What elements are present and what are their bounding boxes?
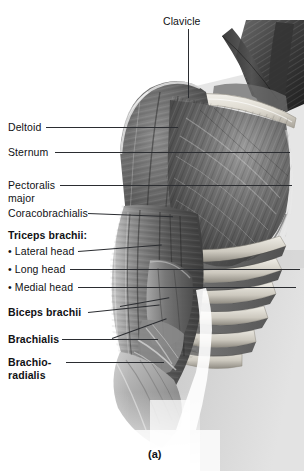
leader-line-medial-head	[78, 287, 296, 288]
leader-line-deltoid	[46, 127, 178, 128]
leader-line-pectoralis-major	[60, 185, 292, 186]
label-pectoralis-major-line2: major	[8, 192, 35, 205]
label-brachialis: Brachialis	[8, 333, 59, 346]
leader-line-clavicle	[188, 29, 189, 98]
label-brachioradialis-line2: radialis	[8, 369, 46, 382]
label-coracobrachialis: Coracobrachialis	[8, 207, 88, 220]
figure-caption: (a)	[148, 448, 161, 460]
label-brachioradialis-line1: Brachio-	[8, 356, 51, 369]
label-biceps-brachii: Biceps brachii	[8, 306, 81, 319]
label-triceps-brachii: Triceps brachii:	[8, 229, 87, 242]
anatomy-figure: Clavicle Deltoid Sternum Pectoralis majo…	[0, 0, 304, 471]
label-clavicle: Clavicle	[163, 15, 201, 28]
leader-line-sternum	[55, 152, 290, 153]
leader-line-long-head	[70, 269, 300, 270]
label-pectoralis-major-line1: Pectoralis	[8, 179, 55, 192]
label-sternum: Sternum	[8, 146, 48, 159]
leader-line-brachialis	[62, 339, 158, 340]
label-deltoid: Deltoid	[8, 121, 41, 134]
leader-line-brachioradialis	[66, 362, 164, 363]
label-medial-head: • Medial head	[8, 281, 73, 294]
label-lateral-head: • Lateral head	[8, 245, 74, 258]
label-long-head: • Long head	[8, 263, 65, 276]
